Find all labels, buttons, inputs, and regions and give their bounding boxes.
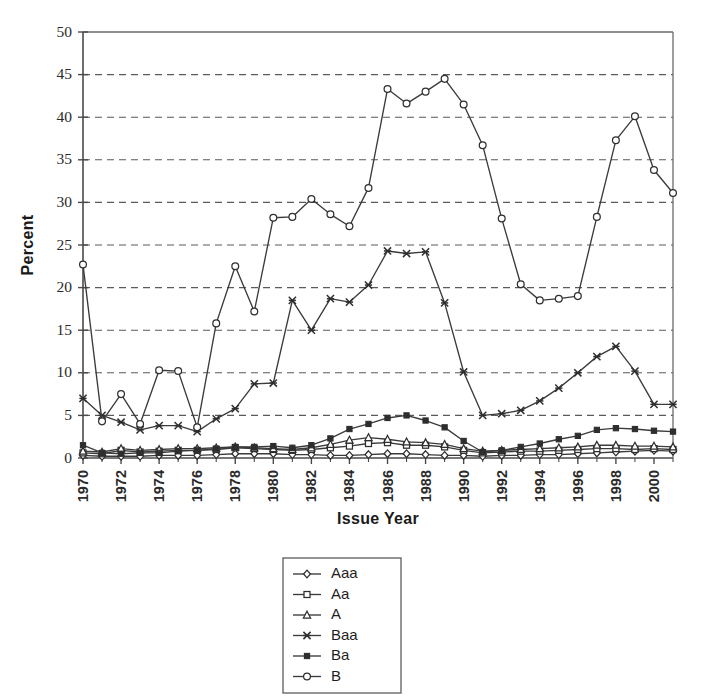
data-point-open-circle [479, 142, 486, 149]
data-point-cross [403, 250, 410, 257]
data-point-open-circle [289, 213, 296, 220]
x-tick-label: 1978 [227, 470, 243, 502]
y-axis-title: Percent [19, 214, 36, 275]
x-tick-label: 1986 [380, 470, 396, 502]
data-point-solid-square [461, 438, 466, 443]
data-point-solid-square [442, 425, 447, 430]
data-point-open-circle [308, 196, 315, 203]
y-tick-label: 0 [64, 449, 72, 466]
data-point-cross [213, 415, 220, 422]
x-tick-label: 1980 [265, 470, 281, 502]
x-tick-label: 1972 [113, 470, 129, 502]
data-point-solid-square [157, 450, 162, 455]
data-point-solid-square [347, 426, 352, 431]
data-point-open-circle [555, 295, 562, 302]
y-tick-label: 30 [57, 193, 73, 210]
data-point-open-diamond [403, 450, 410, 458]
y-tick-label: 50 [57, 23, 73, 40]
data-point-solid-square [499, 448, 504, 453]
data-point-solid-square [195, 448, 200, 453]
chart-figure: 05101520253035404550 1970197219741976197… [0, 0, 703, 699]
data-point-open-diamond [384, 450, 391, 458]
data-point-open-square [346, 443, 352, 449]
data-point-open-circle [213, 320, 220, 327]
data-series-layer [79, 75, 676, 460]
data-point-solid-square [366, 421, 371, 426]
x-tick-label: 1974 [151, 470, 167, 502]
data-point-open-circle [270, 214, 277, 221]
data-point-open-circle [156, 367, 163, 374]
data-point-open-circle [460, 101, 467, 108]
data-point-cross [365, 281, 372, 288]
data-point-cross [479, 412, 486, 419]
data-point-solid-square [518, 444, 523, 449]
data-point-open-circle [137, 421, 144, 428]
data-point-open-circle [517, 281, 524, 288]
data-point-open-circle [80, 261, 87, 268]
data-point-open-circle [99, 418, 106, 425]
data-point-cross [384, 247, 391, 254]
data-point-solid-square [385, 415, 390, 420]
line-chart-svg: 05101520253035404550 1970197219741976197… [0, 0, 703, 699]
x-axis-title: Issue Year [337, 510, 419, 527]
data-point-cross [422, 248, 429, 255]
data-point-open-square [365, 441, 371, 447]
data-point-solid-square [80, 443, 85, 448]
x-tick-label: 2000 [646, 470, 662, 502]
data-point-open-circle [346, 223, 353, 230]
x-tick-label: 1982 [303, 470, 319, 502]
data-point-open-circle [365, 185, 372, 192]
data-point-cross [593, 353, 600, 360]
y-tick-label: 25 [57, 236, 73, 253]
series-ba [80, 413, 675, 457]
y-tick-label: 35 [57, 150, 73, 167]
data-point-solid-square [670, 429, 675, 434]
y-tick-label: 40 [57, 108, 73, 125]
y-tick-label: 5 [64, 406, 72, 423]
data-point-solid-square [537, 441, 542, 446]
data-point-cross [232, 405, 239, 412]
data-point-solid-square [271, 443, 276, 448]
data-point-open-circle [670, 190, 677, 197]
data-point-cross [175, 422, 182, 429]
data-point-cross [308, 327, 315, 334]
x-tick-label: 1970 [75, 470, 91, 502]
data-point-open-circle [384, 86, 391, 93]
data-point-open-circle [118, 391, 125, 398]
data-point-cross [555, 385, 562, 392]
legend-label: Baa [331, 626, 358, 643]
x-tick-label: 1976 [189, 470, 205, 502]
data-point-open-circle [327, 211, 334, 218]
data-point-solid-square [404, 413, 409, 418]
data-point-cross [498, 410, 505, 417]
data-point-open-circle [194, 424, 201, 431]
data-point-solid-square [613, 426, 618, 431]
legend-label: Aaa [331, 564, 358, 581]
series-line-ba [83, 415, 673, 453]
data-point-solid-square [214, 446, 219, 451]
data-point-solid-square [99, 450, 104, 455]
legend-label: Aa [331, 585, 350, 602]
data-point-solid-square [304, 653, 309, 658]
y-tick-label: 10 [57, 363, 73, 380]
y-tick-label: 20 [57, 278, 73, 295]
legend-label: B [331, 667, 341, 684]
x-tick-label: 1984 [341, 470, 357, 502]
y-tick-label: 15 [57, 321, 73, 338]
data-point-solid-square [252, 444, 257, 449]
data-point-solid-square [309, 443, 314, 448]
data-point-cross [251, 380, 258, 387]
data-point-solid-square [632, 426, 637, 431]
data-point-open-circle [232, 263, 239, 270]
data-point-cross [536, 397, 543, 404]
data-point-open-circle [403, 100, 410, 107]
x-tick-label: 1992 [494, 470, 510, 502]
data-point-solid-square [556, 437, 561, 442]
series-line-a [83, 438, 673, 452]
data-point-solid-square [651, 428, 656, 433]
series-baa [79, 247, 676, 435]
data-point-solid-square [328, 436, 333, 441]
data-point-open-circle [498, 215, 505, 222]
data-point-cross [612, 343, 619, 350]
data-point-open-circle [304, 673, 311, 680]
